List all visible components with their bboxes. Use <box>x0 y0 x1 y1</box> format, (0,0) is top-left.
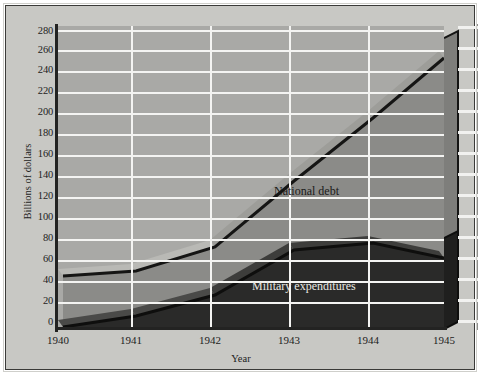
y-tick-240: 240 <box>9 64 53 75</box>
gridline-220 <box>58 92 444 94</box>
right-tick-160 <box>458 152 478 155</box>
gridline-1944 <box>368 26 370 328</box>
right-tick-140 <box>458 173 478 176</box>
right-tick-200 <box>458 110 478 113</box>
military-side-face <box>444 231 458 329</box>
right-tick-40 <box>458 278 478 281</box>
gridline-60 <box>58 260 444 262</box>
chart-card: 280 260 240 220 200 180 160 140 120 100 … <box>5 5 475 370</box>
y-axis-line <box>55 24 58 332</box>
gridline-20 <box>58 302 444 304</box>
y-axis-title: Billions of dollars <box>22 117 33 247</box>
x-tick-1944: 1944 <box>338 334 398 346</box>
right-tick-220 <box>458 89 478 92</box>
gridline-260 <box>58 50 444 52</box>
gridline-40 <box>58 281 444 283</box>
right-tick-0 <box>458 320 478 323</box>
y-tick-260: 260 <box>9 44 53 55</box>
x-tick-1942: 1942 <box>180 334 240 346</box>
right-tick-240 <box>458 68 478 71</box>
national-debt-side-face <box>444 31 458 265</box>
gridline-200 <box>58 113 444 115</box>
series-annotation-national-debt: National debt <box>274 184 339 199</box>
right-axis-ticks <box>458 26 480 329</box>
x-axis-title: Year <box>6 353 476 364</box>
right-tick-180 <box>458 131 478 134</box>
gridline-280 <box>58 30 444 32</box>
x-tick-1943: 1943 <box>259 334 319 346</box>
y-tick-280: 280 <box>9 25 53 36</box>
y-tick-0: 0 <box>9 316 53 327</box>
y-tick-20: 20 <box>9 295 53 306</box>
right-tick-20 <box>458 299 478 302</box>
y-tick-200: 200 <box>9 106 53 117</box>
y-tick-40: 40 <box>9 274 53 285</box>
gridline-180 <box>58 134 444 136</box>
gridline-1942 <box>210 26 212 328</box>
gridline-80 <box>58 239 444 241</box>
right-tick-80 <box>458 236 478 239</box>
y-tick-220: 220 <box>9 85 53 96</box>
gridline-240 <box>58 71 444 73</box>
right-tick-280 <box>458 26 478 29</box>
gridline-140 <box>58 176 444 178</box>
gridline-1941 <box>131 26 133 328</box>
chart-figure: 280 260 240 220 200 180 160 140 120 100 … <box>0 0 480 375</box>
right-tick-60 <box>458 257 478 260</box>
gridline-120 <box>58 197 444 199</box>
x-tick-1941: 1941 <box>101 334 161 346</box>
right-tick-120 <box>458 194 478 197</box>
series-annotation-military-expenditures: Military expenditures <box>252 279 356 294</box>
y-tick-60: 60 <box>9 253 53 264</box>
x-axis-line <box>55 327 447 330</box>
right-tick-100 <box>458 215 478 218</box>
x-tick-1940: 1940 <box>28 334 88 346</box>
gridline-100 <box>58 218 444 220</box>
plot-area: National debt Military expenditures <box>58 26 444 328</box>
gridline-160 <box>58 155 444 157</box>
right-tick-260 <box>458 47 478 50</box>
x-tick-1945: 1945 <box>414 334 474 346</box>
